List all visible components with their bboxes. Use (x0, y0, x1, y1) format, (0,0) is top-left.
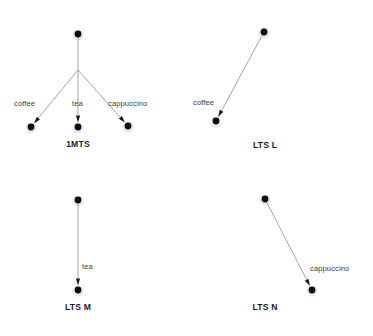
node-lts-n-root (259, 195, 270, 206)
transition-systems-graph (0, 0, 373, 336)
edge-label-coffee: coffee (193, 99, 214, 107)
diagram-canvas: coffeeteacappuccino1MTScoffeeLTS LteaLTS… (0, 0, 373, 336)
state-node (213, 118, 220, 125)
diagram-title-lts-l: LTS L (0, 141, 373, 150)
diagram-lts-m (72, 196, 83, 297)
arrow-head (305, 279, 310, 286)
node-lts-l-leaf-coffee (210, 117, 221, 128)
edge-label-cappuccino: cappuccino (310, 265, 349, 273)
state-node (75, 124, 82, 131)
edge-line (267, 203, 307, 280)
state-node (309, 287, 316, 294)
state-node (261, 29, 268, 36)
node-lts-m-root (72, 196, 83, 207)
edge-label-coffee: coffee (14, 100, 35, 108)
node-lts-m-leaf-tea (72, 286, 83, 297)
edge-lts-n-0 (267, 203, 310, 286)
edge-label-cappuccino: cappuccino (108, 100, 147, 108)
state-node (125, 123, 132, 130)
state-node (75, 197, 82, 204)
edge-1mts-2 (78, 70, 125, 123)
state-node (28, 124, 35, 131)
node-1mts-leaf-coffee (25, 123, 36, 134)
node-lts-l-root (258, 27, 269, 38)
arrow-head (218, 110, 223, 117)
diagram-1mts (25, 29, 133, 133)
node-1mts-root (72, 29, 83, 40)
state-node (75, 31, 82, 38)
edge-label-tea: tea (82, 263, 93, 271)
node-1mts-leaf-tea (72, 123, 83, 134)
edge-label-tea: tea (72, 100, 83, 108)
arrow-head (76, 278, 80, 285)
diagram-title-lts-n: LTS N (0, 303, 373, 312)
diagram-lts-n (259, 195, 317, 297)
edge-lts-m-0 (76, 204, 80, 285)
diagram-lts-l (210, 27, 269, 127)
edge-1mts-1 (76, 70, 80, 122)
state-node (75, 287, 82, 294)
state-node (262, 196, 269, 203)
node-lts-n-leaf-cappuccino (306, 286, 317, 297)
edge-line (38, 70, 78, 118)
arrow-head (76, 115, 80, 122)
edge-lts-l-0 (218, 36, 262, 117)
node-1mts-leaf-cappuccino (122, 122, 133, 133)
edge-line (222, 36, 263, 111)
edge-line (78, 70, 120, 117)
edge-1mts-0 (34, 70, 78, 123)
